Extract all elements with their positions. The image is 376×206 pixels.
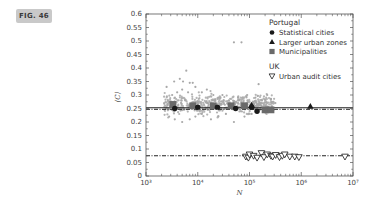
- cloud-point: [194, 116, 196, 118]
- cloud-point: [207, 97, 209, 99]
- cloud-point: [202, 102, 204, 104]
- cloud-point: [223, 102, 225, 104]
- cloud-point: [273, 98, 275, 100]
- cloud-point: [187, 104, 189, 106]
- cloud-point: [270, 99, 272, 101]
- cloud-point: [196, 97, 198, 99]
- cloud-point: [218, 101, 220, 103]
- cloud-point: [169, 97, 171, 99]
- cloud-point: [223, 96, 225, 98]
- cloud-point: [240, 41, 242, 43]
- cloud-point: [266, 94, 268, 96]
- x-tick-label: 10⁵: [244, 179, 256, 187]
- cloud-point: [230, 98, 232, 100]
- cloud-point: [180, 99, 182, 101]
- legend-marker: [269, 74, 275, 79]
- circle-marker: [254, 109, 259, 114]
- cloud-point: [221, 103, 223, 105]
- cloud-point: [165, 101, 167, 103]
- cloud-point: [243, 111, 245, 113]
- cloud-point: [241, 97, 243, 99]
- cloud-point: [198, 91, 200, 93]
- cloud-point: [179, 78, 181, 80]
- square-marker: [189, 102, 196, 109]
- cloud-point: [202, 115, 204, 117]
- cloud-point: [194, 86, 196, 88]
- legend-heading: Portugal: [269, 18, 300, 27]
- y-tick-label: 0.25: [126, 105, 142, 113]
- y-tick-label: 0.05: [126, 159, 142, 167]
- cloud-point: [165, 86, 167, 88]
- cloud-point: [173, 97, 175, 99]
- cloud-point: [258, 83, 260, 85]
- cloud-point: [263, 95, 265, 97]
- legend-entry-label: Statistical cities: [279, 29, 335, 37]
- cloud-point: [271, 94, 273, 96]
- square-marker: [241, 102, 248, 109]
- cloud-point: [216, 111, 218, 113]
- cloud-point: [221, 94, 223, 96]
- cloud-point: [168, 95, 170, 97]
- cloud-point: [217, 97, 219, 99]
- cloud-point: [259, 103, 261, 105]
- cloud-point: [248, 99, 250, 101]
- cloud-point: [251, 113, 253, 115]
- cloud-point: [201, 99, 203, 101]
- cloud-point: [179, 96, 181, 98]
- cloud-point: [166, 103, 168, 105]
- legend: PortugalStatistical citiesLarger urban z…: [269, 18, 347, 81]
- cloud-point: [255, 94, 257, 96]
- cloud-point: [191, 98, 193, 100]
- cloud-point: [207, 105, 209, 107]
- y-tick-label: 0.45: [126, 51, 142, 59]
- cloud-point: [182, 105, 184, 107]
- cloud-point: [176, 91, 178, 93]
- cloud-point: [194, 99, 196, 101]
- cloud-point: [259, 94, 261, 96]
- cloud-point: [246, 94, 248, 96]
- legend-marker: [269, 39, 275, 44]
- cloud-point: [166, 113, 168, 115]
- x-tick-label: 10⁶: [295, 179, 307, 187]
- cloud-point: [164, 114, 166, 116]
- y-tick-label: 0.2: [131, 118, 142, 126]
- cloud-point: [210, 93, 212, 95]
- legend-entry-label: Municipalities: [279, 48, 327, 56]
- cloud-point: [200, 103, 202, 105]
- y-tick-label: 0.5: [131, 37, 142, 45]
- cloud-point: [171, 94, 173, 96]
- cloud-point: [192, 82, 194, 84]
- cloud-point: [210, 95, 212, 97]
- cloud-point: [198, 95, 200, 97]
- cloud-point: [163, 96, 165, 98]
- cloud-point: [187, 91, 189, 93]
- cloud-point: [197, 113, 199, 115]
- cloud-point: [221, 110, 223, 112]
- y-tick-label: 0.1: [131, 145, 142, 153]
- cloud-point: [225, 113, 227, 115]
- cloud-point: [164, 99, 166, 101]
- cloud-point: [181, 121, 183, 123]
- triangle-down-marker: [254, 155, 261, 161]
- legend-heading: UK: [269, 62, 280, 71]
- cloud-point: [201, 113, 203, 115]
- cloud-point: [205, 101, 207, 103]
- circle-marker: [195, 104, 200, 109]
- y-tick-label: 0.3: [131, 91, 142, 99]
- triangle-up-marker: [307, 103, 314, 109]
- legend-marker: [269, 49, 274, 54]
- legend-marker: [270, 30, 275, 35]
- cloud-point: [239, 98, 241, 100]
- cloud-point: [183, 97, 185, 99]
- triangle-down-marker: [342, 154, 349, 160]
- cloud-point: [212, 94, 214, 96]
- cloud-point: [265, 103, 267, 105]
- legend-entry-label: Urban audit cities: [279, 73, 341, 81]
- cloud-point: [189, 118, 191, 120]
- cloud-point: [176, 99, 178, 101]
- cloud-point: [274, 102, 276, 104]
- cloud-point: [243, 116, 245, 118]
- cloud-point: [233, 41, 235, 43]
- cloud-point: [226, 95, 228, 97]
- x-tick-label: 10⁷: [347, 179, 359, 187]
